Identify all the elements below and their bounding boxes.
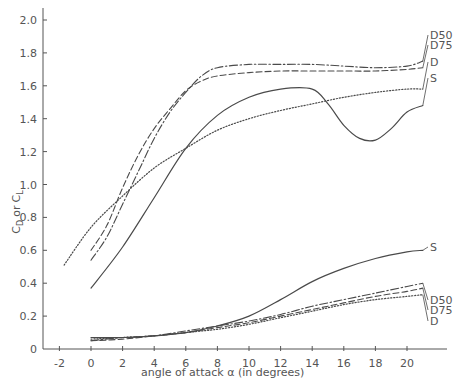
series-labels: D50D75DSSD50D75D (423, 29, 453, 328)
y-tick-label: 0.6 (20, 244, 38, 257)
x-tick-label: 2 (119, 357, 126, 370)
y-axis-title-sub2: L (16, 190, 25, 195)
lift-drag-chart: -20246810121416182000.20.40.60.81.01.21.… (0, 0, 457, 386)
y-tick-label: 1.6 (20, 80, 38, 93)
y-tick-label: 2.0 (20, 14, 38, 27)
y-tick-label: 0.2 (20, 310, 38, 323)
series-label-drag-d: D (430, 315, 438, 328)
label-leader (423, 78, 428, 106)
x-tick-label: 0 (88, 357, 95, 370)
series-label-lift-s: S (430, 72, 437, 85)
y-axis-title-or: or (10, 205, 23, 217)
curve-drag-d75 (91, 288, 423, 341)
curve-lift-d50 (91, 61, 423, 260)
y-tick-label: 1.2 (20, 146, 38, 159)
y-tick-label: 0.4 (20, 277, 38, 290)
x-tick-label: 20 (400, 357, 414, 370)
y-tick-label: 0 (30, 343, 37, 356)
curve-lift-d (64, 89, 423, 265)
series-label-drag-s: S (430, 241, 437, 254)
series-label-lift-d75: D75 (430, 39, 452, 52)
x-axis-title: angle of attack α (in degrees) (141, 366, 304, 379)
label-leader (423, 247, 428, 250)
y-axis-title: CDorCL (10, 190, 25, 234)
curve-lift-s (91, 88, 423, 288)
curves (64, 61, 423, 341)
series-label-lift-d: D (430, 56, 438, 69)
svg-text:CDorCL: CDorCL (10, 190, 25, 234)
y-tick-label: 1.8 (20, 47, 38, 60)
curve-lift-d75 (91, 68, 423, 251)
y-axis-title-sub1: D (16, 220, 25, 226)
y-tick-label: 1.4 (20, 113, 38, 126)
x-tick-label: -2 (54, 357, 65, 370)
y-tick-label: 1.0 (20, 179, 38, 192)
x-tick-label: 14 (305, 357, 319, 370)
axes (43, 8, 447, 349)
x-tick-label: 16 (337, 357, 351, 370)
x-tick-label: 18 (368, 357, 382, 370)
curve-drag-d (91, 295, 423, 339)
